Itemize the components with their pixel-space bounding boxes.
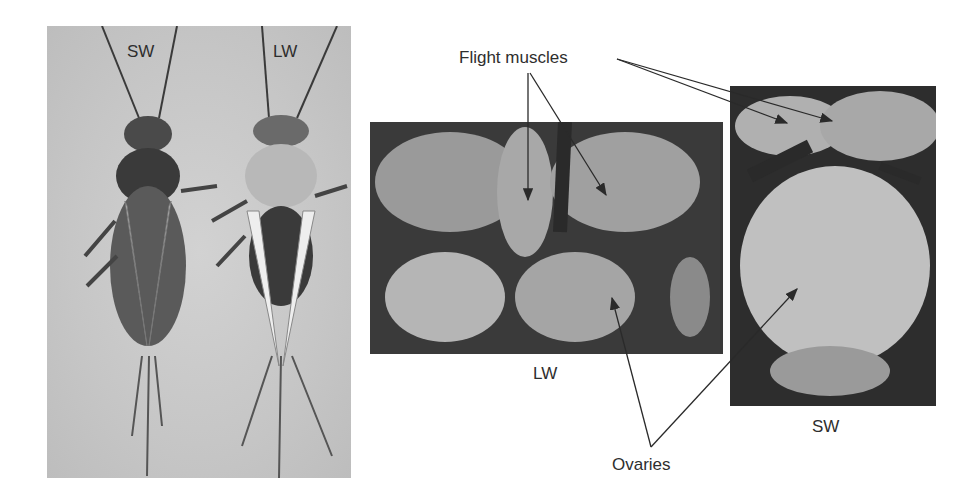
sw-dissection-photo — [730, 86, 936, 406]
lw-caption: LW — [533, 364, 557, 384]
cricket-morphs-photo: SW LW — [47, 26, 351, 478]
lw-tissue-illustration — [370, 122, 723, 354]
lw-label: LW — [273, 42, 297, 62]
sw-cricket — [85, 26, 217, 476]
sw-tissue-illustration — [730, 86, 936, 406]
lw-dissection-photo — [370, 122, 723, 354]
flight-muscles-label: Flight muscles — [459, 48, 568, 68]
sw-caption: SW — [812, 417, 839, 437]
ovaries-label: Ovaries — [612, 455, 671, 475]
lw-cricket — [212, 26, 347, 478]
cricket-illustration — [47, 26, 351, 478]
sw-label: SW — [127, 42, 154, 62]
